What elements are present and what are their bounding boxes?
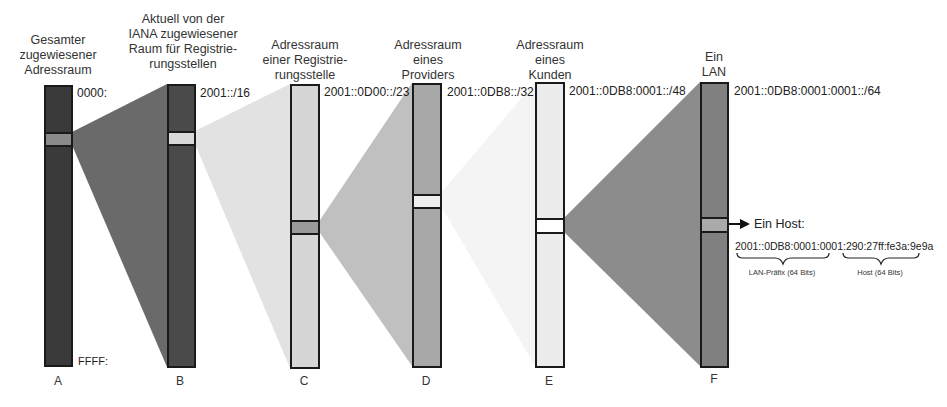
letter-c: C bbox=[294, 374, 314, 388]
arrow-right-icon bbox=[740, 219, 750, 229]
title-column-f: Ein LAN bbox=[684, 50, 744, 80]
top-label-b: 2001::/16 bbox=[200, 86, 250, 100]
host-bits-label: Host (64 Bits) bbox=[848, 268, 912, 277]
band-f bbox=[702, 217, 727, 233]
bottom-label-a: FFFF: bbox=[78, 355, 108, 367]
letter-e: E bbox=[539, 374, 559, 388]
top-label-e: 2001::0DB8:0001::/48 bbox=[569, 84, 686, 98]
title-column-e: Adressraum eines Kunden bbox=[500, 38, 600, 83]
title-column-c: Adressraum einer Registrie- rungsstelle bbox=[255, 38, 355, 83]
band-d bbox=[414, 194, 440, 209]
letter-d: D bbox=[416, 374, 436, 388]
host-address: 2001::0DB8:0001:0001:290:27ff:fe3a:9e9a bbox=[735, 240, 933, 252]
letter-a: A bbox=[48, 374, 68, 388]
band-c bbox=[292, 220, 318, 235]
wedge-a-to-b bbox=[72, 84, 167, 367]
address-bar-c bbox=[290, 84, 320, 369]
lan-prefix-label: LAN-Präfix (64 Bits) bbox=[740, 268, 824, 277]
title-column-d: Adressraum eines Providers bbox=[378, 38, 478, 83]
address-bar-f bbox=[700, 82, 729, 368]
address-bar-d bbox=[412, 83, 442, 368]
host-brace bbox=[843, 253, 919, 264]
band-b bbox=[169, 131, 194, 146]
address-bar-e bbox=[535, 82, 565, 368]
top-label-a: 0000: bbox=[77, 86, 107, 100]
wedge-e-to-f bbox=[564, 82, 700, 366]
top-label-c: 2001::0D00::/23 bbox=[324, 85, 409, 99]
letter-f: F bbox=[704, 372, 724, 386]
top-label-f: 2001::0DB8:0001:0001::/64 bbox=[734, 84, 881, 98]
wedge-d-to-e bbox=[441, 82, 535, 366]
address-bar-a bbox=[44, 85, 73, 367]
band-e bbox=[537, 218, 563, 234]
wedge-c-to-d bbox=[320, 83, 412, 366]
lan-prefix-brace bbox=[737, 253, 829, 264]
title-column-b: Aktuell von der IANA zugewiesener Raum f… bbox=[118, 12, 248, 72]
title-column-a: Gesamter zugewiesener Adressraum bbox=[8, 33, 108, 78]
address-bar-b bbox=[167, 84, 196, 368]
host-label: Ein Host: bbox=[754, 217, 805, 231]
band-a bbox=[46, 132, 71, 147]
top-label-d: 2001::0DB8::/32 bbox=[447, 85, 534, 99]
wedge-b-to-c bbox=[195, 84, 290, 368]
letter-b: B bbox=[170, 374, 190, 388]
